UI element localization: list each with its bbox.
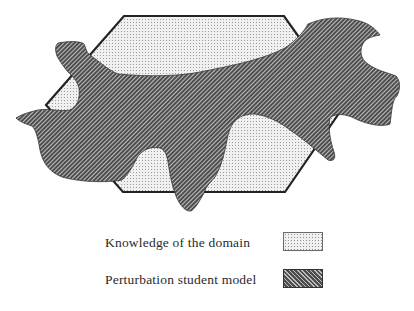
legend-label-student-model: Perturbation student model <box>105 272 256 288</box>
domain-diagram <box>0 0 414 220</box>
legend-swatch-dots <box>283 232 323 251</box>
legend-label-domain-knowledge: Knowledge of the domain <box>105 235 250 251</box>
legend-item-student-model: Perturbation student model <box>105 270 256 289</box>
legend-swatch-hatch <box>283 269 323 288</box>
legend-item-domain-knowledge: Knowledge of the domain <box>105 233 250 252</box>
